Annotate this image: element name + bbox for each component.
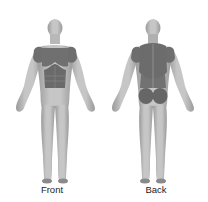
right-leg: [153, 104, 167, 180]
front-body-figure: [0, 0, 104, 202]
back-view: Back: [104, 0, 208, 202]
right-deltoid-highlight: [68, 47, 77, 63]
left-leg: [41, 104, 55, 180]
left-deltoid-highlight: [131, 47, 140, 63]
neck: [148, 34, 158, 44]
right-leg: [55, 104, 69, 180]
front-view: Front: [0, 0, 104, 202]
front-label: Front: [0, 184, 104, 195]
left-foot: [140, 179, 150, 184]
right-deltoid-highlight: [166, 47, 175, 63]
left-leg: [139, 104, 153, 180]
back-label: Back: [104, 184, 208, 195]
right-foot: [58, 179, 68, 184]
left-deltoid-highlight: [33, 47, 42, 63]
right-glute-highlight: [153, 88, 168, 104]
left-foot: [42, 179, 52, 184]
left-glute-highlight: [139, 88, 154, 104]
back-body-figure: [104, 0, 208, 202]
neck: [50, 34, 60, 44]
right-foot: [156, 179, 166, 184]
